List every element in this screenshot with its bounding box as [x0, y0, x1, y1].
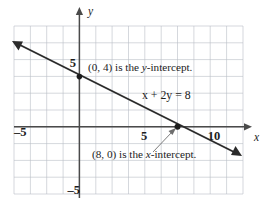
- equation-middle: + 2: [148, 88, 167, 102]
- x-intercept-annotation: (8, 0) is the x-intercept.: [92, 148, 197, 161]
- x-intercept-annotation-part-a: (8, 0) is the: [92, 148, 146, 161]
- annotations: (0, 4) is the y-intercept. x + 2y = 8 (8…: [88, 61, 197, 161]
- y-tick-label-neg5: –5: [67, 183, 81, 197]
- y-intercept-annotation-part-b: -intercept.: [147, 61, 193, 73]
- x-axis-label: x: [253, 131, 260, 143]
- grid-lines: [14, 26, 243, 194]
- y-axis-label: y: [87, 5, 94, 18]
- coordinate-graph-figure: y x –5 5 10 5 –5 (0, 4) is the y-interce…: [0, 0, 266, 207]
- x-tick-label-10: 10: [208, 129, 221, 143]
- x-intercept-annotation-part-b: -intercept.: [151, 148, 197, 160]
- x-axis-arrowhead: [244, 123, 252, 130]
- x-tick-label-neg5: –5: [13, 125, 27, 139]
- graph-svg: y x –5 5 10 5 –5 (0, 4) is the y-interce…: [0, 0, 266, 207]
- y-intercept-annotation-part-a: (0, 4) is the: [88, 61, 142, 74]
- y-tick-label-5: 5: [70, 56, 76, 70]
- y-intercept-annotation: (0, 4) is the y-intercept.: [88, 61, 193, 74]
- equation-annotation: x + 2y = 8: [142, 88, 191, 102]
- y-axis-arrowhead: [76, 7, 83, 15]
- y-intercept-point: [77, 74, 83, 80]
- equation-tail: = 8: [172, 88, 191, 102]
- x-tick-label-5: 5: [141, 129, 147, 143]
